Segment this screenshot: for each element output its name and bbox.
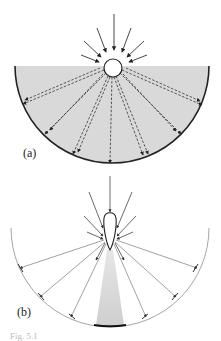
focus-segment bbox=[94, 325, 126, 326]
panel-label-b: (b) bbox=[17, 305, 31, 320]
figure-caption: Fig. 5.1 bbox=[10, 331, 38, 341]
incoming-arrows bbox=[81, 14, 147, 62]
panel-a bbox=[15, 14, 209, 163]
shaded-cone bbox=[96, 250, 124, 325]
panel-label-a: (a) bbox=[23, 146, 36, 161]
source-circle bbox=[104, 59, 122, 77]
panel-b bbox=[11, 176, 209, 327]
shaded-medium bbox=[15, 66, 209, 163]
